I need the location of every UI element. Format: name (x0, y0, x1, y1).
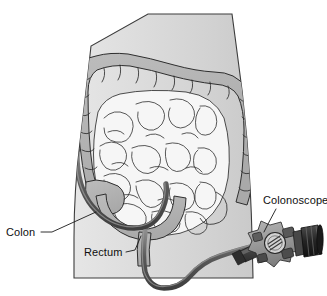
eyepiece-cap (317, 225, 323, 255)
label-colon: Colon (6, 226, 35, 238)
colonoscopy-figure: Colon Rectum Colonoscope (0, 0, 327, 296)
illustration-canvas: Colon Rectum Colonoscope (0, 0, 327, 296)
control-knob-bottom (257, 253, 268, 263)
control-knob-left (252, 232, 263, 242)
eyepiece (293, 225, 323, 257)
label-colonoscope: Colonoscope (263, 194, 327, 206)
label-rectum: Rectum (84, 246, 123, 258)
